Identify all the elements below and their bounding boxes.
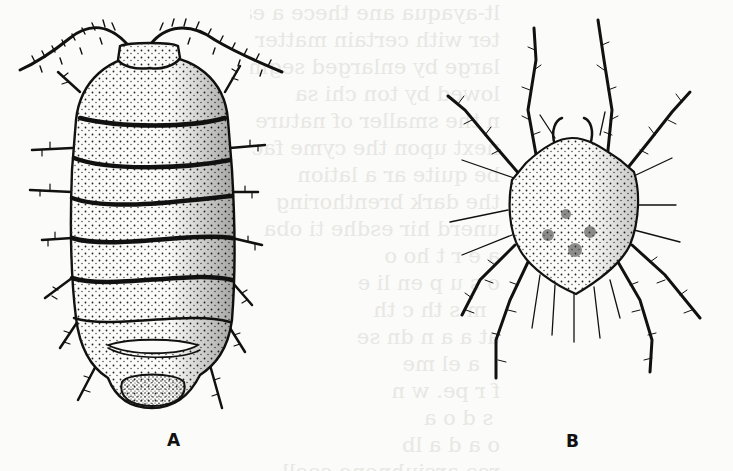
figure-illustration <box>0 0 733 471</box>
isopod-telson <box>121 375 184 407</box>
isopod-figure-a <box>20 19 282 408</box>
mite-figure-b <box>448 20 700 378</box>
figure-label-b: B <box>566 431 579 451</box>
figure-page: lt-ayaqua ane thece a ea ter with certai… <box>0 0 733 471</box>
figure-label-a: A <box>167 430 180 450</box>
